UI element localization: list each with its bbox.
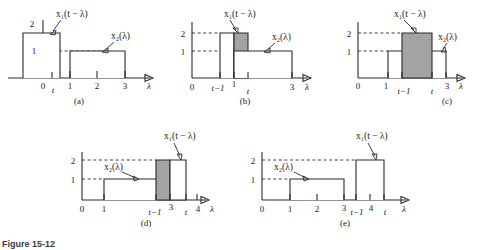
panel-d-plot: 2 1 0 1 t−1 3 t 4 λ x₁(t − λ) x₂(λ) (60, 126, 228, 216)
axis-label-lambda: λ (209, 204, 214, 214)
xtick-1: 1 (102, 204, 107, 214)
xtick-tminus1: t−1 (148, 207, 161, 217)
label-x2: x₂(λ) (104, 162, 123, 173)
panel-letter-a: (a) (64, 96, 94, 106)
panel-c: 2 1 0 1 t−1 t 3 λ x₁(t − λ) x₂(λ) (330, 6, 484, 94)
xtick-0: 0 (260, 204, 265, 214)
ytick-2: 2 (251, 156, 256, 166)
xtick-1: 1 (384, 81, 389, 91)
xtick-3: 3 (342, 203, 347, 213)
pulse-x1-left (220, 33, 234, 78)
ytick-2: 2 (71, 156, 76, 166)
xtick-0: 0 (356, 81, 361, 91)
panel-b-plot: 2 1 0 t−1 1 t 3 λ x₁(t − λ) x₂(λ) (168, 6, 326, 94)
axis-label-lambda: λ (304, 82, 309, 92)
panel-c-plot: 2 1 0 1 t−1 t 3 λ x₁(t − λ) x₂(λ) (330, 6, 484, 94)
xtick-4: 4 (196, 204, 201, 214)
label-x1: x₁(t − λ) (394, 9, 426, 20)
xtick-0: 0 (80, 204, 85, 214)
panel-letter-d: (d) (131, 218, 161, 228)
label-x2: x₂(λ) (438, 32, 457, 43)
ytick-1: 1 (71, 175, 76, 185)
label-x1: x₁(t − λ) (56, 9, 88, 20)
pulse-x1 (23, 33, 60, 78)
xtick-t: t (431, 86, 434, 96)
label-x2: x₂(λ) (111, 31, 130, 42)
xtick-1: 1 (68, 81, 73, 91)
pulse-x2 (234, 51, 292, 78)
panel-letter-c: (c) (432, 96, 462, 106)
label-x1: x₁(t − λ) (164, 131, 196, 142)
leader-x1 (53, 20, 61, 31)
ytick-1: 1 (181, 47, 186, 57)
axis-label-lambda: λ (146, 81, 151, 91)
xtick-tminus1: t−1 (397, 86, 410, 96)
xtick-1: 1 (232, 79, 237, 89)
xtick-3: 3 (123, 81, 128, 91)
xtick-3: 3 (169, 202, 174, 212)
label-x1: x₁(t − λ) (224, 9, 256, 20)
xtick-t: t (384, 207, 387, 217)
figure-caption: Figure 15-12 (2, 239, 55, 250)
xtick-2: 2 (95, 81, 100, 91)
xtick-0: 0 (41, 81, 46, 91)
panel-b: 2 1 0 t−1 1 t 3 λ x₁(t − λ) x₂(λ) (168, 6, 326, 94)
ytick-2: 2 (181, 29, 186, 39)
leader-x2 (122, 172, 136, 178)
xtick-1: 1 (288, 204, 293, 214)
overlap-shaded (156, 160, 170, 200)
pulse-x1-right (170, 160, 186, 200)
panel-e: 2 1 0 1 2 3 t−1 4 t λ x₁(t − λ) x₂(λ) (244, 126, 429, 216)
xtick-0: 0 (190, 82, 195, 92)
xtick-tminus1: t−1 (211, 83, 224, 93)
axis-label-lambda: λ (401, 204, 406, 214)
panel-letter-e: (e) (330, 218, 360, 228)
xtick-3: 3 (290, 82, 295, 92)
label-x1: x₁(t − λ) (356, 131, 388, 142)
overlap-shaded (402, 33, 432, 78)
ytick-1: 1 (251, 175, 256, 185)
label-x2: x₂(λ) (274, 162, 293, 173)
panel-d: 2 1 0 1 t−1 3 t 4 λ x₁(t − λ) x₂(λ) (60, 126, 228, 216)
xtick-t: t (247, 86, 250, 96)
xtick-3: 3 (445, 81, 450, 91)
ytick-1: 1 (347, 47, 352, 57)
leader-x1-arrow (411, 28, 416, 33)
axis-label-lambda: λ (458, 81, 463, 91)
xtick-t: t (185, 207, 188, 217)
xtick-tminus1: t−1 (350, 207, 363, 217)
leader-x1 (404, 20, 414, 30)
convolution-figure: 2 1 0 t 1 2 3 λ x₁(t − λ) x₂(λ) (a) (0, 0, 486, 250)
xtick-2: 2 (315, 204, 320, 214)
panel-e-plot: 2 1 0 1 2 3 t−1 4 t λ x₁(t − λ) x₂(λ) (244, 126, 429, 216)
panel-a-plot: 2 1 0 t 1 2 3 λ x₁(t − λ) x₂(λ) (4, 6, 164, 94)
label-x2: x₂(λ) (272, 32, 291, 43)
panel-letter-b: (b) (230, 96, 260, 106)
ytick-1: 1 (32, 46, 37, 56)
ytick-2: 2 (347, 29, 352, 39)
xtick-t: t (52, 85, 55, 95)
xtick-4: 4 (369, 203, 374, 213)
ytick-2: 2 (30, 19, 35, 29)
panel-a: 2 1 0 t 1 2 3 λ x₁(t − λ) x₂(λ) (4, 6, 164, 94)
